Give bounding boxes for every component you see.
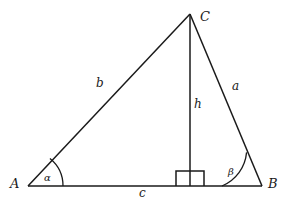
angle-arc-alpha [50,159,63,186]
vertex-label-b: B [268,177,278,190]
triangle-diagram: A B C b a c h α β [0,0,286,208]
vertex-label-c: C [200,10,210,23]
side-label-c: c [139,187,146,199]
vertex-label-a: A [10,177,19,190]
side-label-h: h [194,98,202,110]
angle-label-beta: β [228,167,234,177]
diagram-canvas [0,0,286,208]
angle-arc-beta [222,152,247,186]
angle-label-alpha: α [44,173,51,183]
side-label-a: a [232,80,239,92]
side-label-b: b [96,77,104,89]
